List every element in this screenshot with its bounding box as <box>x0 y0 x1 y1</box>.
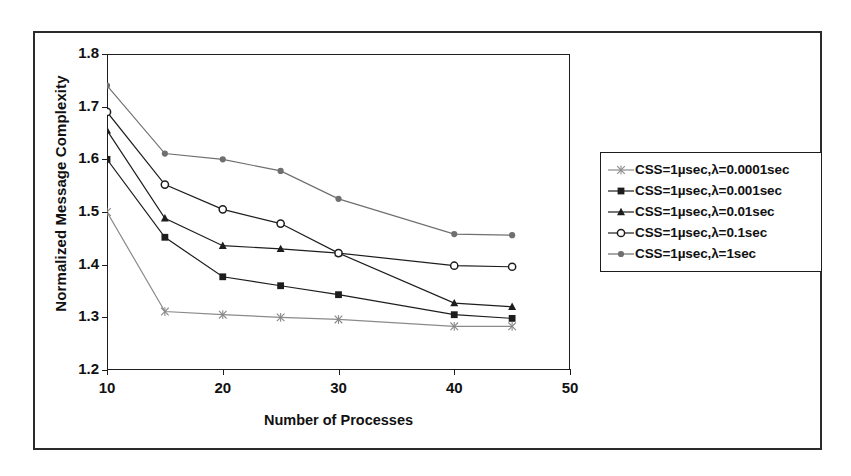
data-point-filled-square <box>451 311 458 318</box>
legend-item[interactable]: CSS=1µsec,λ=0.1sec <box>607 222 813 243</box>
data-point-filled-circle <box>618 250 624 256</box>
chart-figure: Normalized Message Complexity 1.21.31.41… <box>0 0 851 476</box>
x-tick-mark <box>454 369 455 375</box>
x-tick-label: 50 <box>550 379 590 396</box>
data-point-filled-circle <box>509 232 515 238</box>
y-tick-label: 1.7 <box>49 97 99 114</box>
data-point-filled-triangle <box>450 299 458 306</box>
y-tick-label: 1.4 <box>49 255 99 272</box>
data-point-filled-triangle <box>161 214 169 221</box>
series-4 <box>107 83 515 239</box>
data-point-filled-square <box>509 315 516 322</box>
legend-marker-filled-square-icon <box>607 183 635 199</box>
y-tick-mark <box>102 159 108 160</box>
x-tick-mark <box>570 369 571 375</box>
y-tick-mark <box>102 212 108 213</box>
data-point-filled-square <box>618 187 625 194</box>
legend-marker-filled-triangle-icon <box>607 204 635 220</box>
x-tick-mark <box>339 369 340 375</box>
x-tick-label: 20 <box>203 379 243 396</box>
legend-item[interactable]: CSS=1µsec,λ=0.01sec <box>607 201 813 222</box>
data-point-open-circle <box>335 249 342 256</box>
data-point-filled-triangle <box>107 126 111 133</box>
legend-label: CSS=1µsec,λ=0.001sec <box>635 183 782 198</box>
data-point-open-circle <box>161 181 168 188</box>
data-point-open-circle <box>617 229 624 236</box>
y-tick-mark <box>102 107 108 108</box>
data-point-filled-circle <box>220 156 226 162</box>
chart-legend: CSS=1µsec,λ=0.0001secCSS=1µsec,λ=0.001se… <box>600 152 822 272</box>
x-tick-mark <box>107 369 108 375</box>
legend-marker-open-circle-icon <box>607 225 635 241</box>
x-tick-label: 30 <box>319 379 359 396</box>
series-line <box>107 130 512 306</box>
y-tick-mark <box>102 54 108 55</box>
y-tick-label: 1.2 <box>49 360 99 377</box>
y-axis-title: Normalized Message Complexity <box>52 44 69 344</box>
data-point-filled-circle <box>278 168 284 174</box>
series-line <box>107 112 512 267</box>
legend-marker-filled-circle-icon <box>607 246 635 262</box>
legend-item[interactable]: CSS=1µsec,λ=0.001sec <box>607 180 813 201</box>
data-point-open-circle <box>509 263 516 270</box>
data-point-filled-square <box>335 291 342 298</box>
x-tick-label: 40 <box>434 379 474 396</box>
data-point-filled-square <box>161 234 168 241</box>
legend-label: CSS=1µsec,λ=0.01sec <box>635 204 775 219</box>
data-point-filled-square <box>219 273 226 280</box>
data-point-filled-circle <box>451 231 457 237</box>
x-tick-label: 10 <box>87 379 127 396</box>
legend-item[interactable]: CSS=1µsec,λ=0.0001sec <box>607 159 813 180</box>
data-point-filled-triangle <box>219 242 227 249</box>
series-line <box>107 86 512 236</box>
y-tick-mark <box>102 265 108 266</box>
legend-item[interactable]: CSS=1µsec,λ=1sec <box>607 243 813 264</box>
data-point-filled-square <box>277 282 284 289</box>
series-3 <box>107 108 516 270</box>
x-tick-mark <box>223 369 224 375</box>
data-point-open-circle <box>107 108 111 115</box>
legend-label: CSS=1µsec,λ=1sec <box>635 246 756 261</box>
y-tick-label: 1.3 <box>49 307 99 324</box>
y-tick-label: 1.6 <box>49 149 99 166</box>
data-point-open-circle <box>451 262 458 269</box>
data-point-filled-circle <box>162 150 168 156</box>
y-tick-label: 1.5 <box>49 202 99 219</box>
data-point-filled-circle <box>335 196 341 202</box>
x-axis-title: Number of Processes <box>107 412 570 428</box>
legend-marker-star-icon <box>607 162 635 178</box>
y-tick-mark <box>102 317 108 318</box>
legend-label: CSS=1µsec,λ=0.1sec <box>635 225 767 240</box>
plot-canvas <box>107 54 570 370</box>
y-tick-label: 1.8 <box>49 44 99 61</box>
legend-label: CSS=1µsec,λ=0.0001sec <box>635 162 789 177</box>
data-point-open-circle <box>219 206 226 213</box>
data-point-open-circle <box>277 220 284 227</box>
